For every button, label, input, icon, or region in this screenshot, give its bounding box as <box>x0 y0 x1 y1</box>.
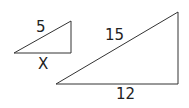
large-triangle <box>56 12 178 84</box>
large-triangle-hypotenuse-label: 15 <box>105 26 124 44</box>
large-triangle-base-label: 12 <box>116 85 135 103</box>
small-triangle-base-label: X <box>38 55 48 73</box>
small-triangle-hypotenuse-label: 5 <box>36 18 46 36</box>
similar-triangles-diagram: 5 X 15 12 <box>0 0 189 108</box>
